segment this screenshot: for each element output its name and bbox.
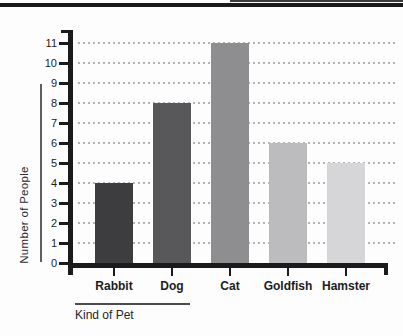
y-tick-10 [59, 62, 68, 65]
y-tick-label-0: 0 [31, 258, 57, 269]
y-tick-label-5: 5 [31, 158, 57, 169]
margin-rule [40, 84, 42, 262]
y-tick-label-9: 9 [31, 78, 57, 89]
y-tick-11 [59, 42, 68, 45]
y-tick-label-2: 2 [31, 218, 57, 229]
header-rule [0, 3, 403, 7]
y-tick-label-4: 4 [31, 178, 57, 189]
y-tick-label-3: 3 [31, 198, 57, 209]
bar-cat [211, 43, 249, 263]
y-tick-label-7: 7 [31, 118, 57, 129]
page-edge-line [230, 0, 403, 2]
y-tick-4 [59, 182, 68, 185]
x-tick-cat [229, 267, 232, 276]
bar-dog [153, 103, 191, 263]
x-axis-title: Kind of Pet [75, 308, 134, 322]
x-tick-rabbit [113, 267, 116, 276]
y-tick-0 [59, 262, 68, 265]
scanned-bar-chart-page: 01234567891011RabbitDogCatGoldfishHamste… [0, 0, 403, 336]
y-axis-line [68, 30, 73, 275]
x-axis-title-underline [75, 303, 190, 305]
y-tick-7 [59, 122, 68, 125]
bar-rabbit [95, 183, 133, 263]
y-tick-9 [59, 82, 68, 85]
y-tick-label-8: 8 [31, 98, 57, 109]
y-axis-title: Number of People [18, 166, 30, 264]
x-tick-goldfish [287, 267, 290, 276]
y-tick-6 [59, 142, 68, 145]
y-tick-2 [59, 222, 68, 225]
y-tick-1 [59, 242, 68, 245]
y-tick-label-1: 1 [31, 238, 57, 249]
y-axis-top-cap [61, 30, 73, 33]
y-tick-8 [59, 102, 68, 105]
bar-goldfish [269, 143, 307, 263]
x-label-hamster: Hamster [311, 279, 381, 293]
y-tick-label-10: 10 [31, 58, 57, 69]
x-tick-dog [171, 267, 174, 276]
y-tick-3 [59, 202, 68, 205]
bar-hamster [327, 163, 365, 263]
x-axis-end-cap [384, 263, 389, 275]
x-tick-hamster [345, 267, 348, 276]
y-tick-label-6: 6 [31, 138, 57, 149]
y-tick-5 [59, 162, 68, 165]
y-tick-label-11: 11 [31, 38, 57, 49]
